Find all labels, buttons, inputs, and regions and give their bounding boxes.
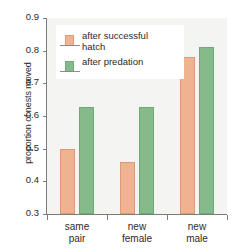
x-tick-mark xyxy=(167,215,168,220)
x-tick-mark xyxy=(47,215,48,220)
x-tick-label: newmale xyxy=(157,221,234,245)
bar xyxy=(199,47,214,214)
bar xyxy=(180,57,195,214)
x-tick-label-line: male xyxy=(157,233,234,245)
legend-item-hatch: after successful hatch xyxy=(60,29,180,52)
bar xyxy=(79,107,94,214)
bar xyxy=(60,149,75,214)
y-tick-label: 0.3 xyxy=(26,207,39,218)
bar-chart-figure: proportion of nests moved 0.30.40.50.60.… xyxy=(0,0,234,252)
legend-item-predation: after predation xyxy=(60,55,180,75)
x-axis-line xyxy=(46,214,227,215)
x-tick-mark xyxy=(107,215,108,220)
y-tick-label: 0.9 xyxy=(26,11,39,22)
legend-label-hatch-line1: after successful xyxy=(82,30,148,41)
legend-label-hatch: after successful hatch xyxy=(82,29,148,52)
y-tick-label: 0.7 xyxy=(26,76,39,87)
y-tick-label: 0.4 xyxy=(26,174,39,185)
legend-baseline-icon xyxy=(60,71,80,72)
x-tick-mark xyxy=(227,215,228,220)
bar xyxy=(139,107,154,214)
y-tick-label: 0.6 xyxy=(26,109,39,120)
bar xyxy=(120,162,135,214)
x-tick-label-line: new xyxy=(157,221,234,233)
legend-swatch-wrap-predation xyxy=(60,55,82,75)
legend-label-hatch-line2: hatch xyxy=(82,41,105,52)
legend: after successful hatch after predation xyxy=(56,25,184,79)
y-tick-label: 0.5 xyxy=(26,142,39,153)
legend-swatch-wrap-hatch xyxy=(60,29,82,49)
legend-label-predation: after predation xyxy=(82,55,143,67)
legend-label-predation-line1: after predation xyxy=(82,56,143,67)
y-tick-label: 0.8 xyxy=(26,44,39,55)
legend-baseline-icon xyxy=(60,45,80,46)
